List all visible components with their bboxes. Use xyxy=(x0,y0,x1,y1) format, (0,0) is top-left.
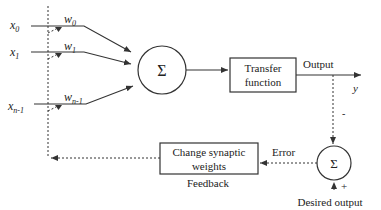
output-var: y xyxy=(352,82,358,94)
input-line-n xyxy=(34,86,133,104)
input-x0-label: x0 xyxy=(9,18,19,34)
desired-output-label: Desired output xyxy=(297,196,362,208)
error-label: Error xyxy=(272,146,296,158)
transfer-line2: function xyxy=(245,76,282,88)
input-xn-label: xn-1 xyxy=(7,99,24,115)
weights-line2: weights xyxy=(192,160,226,172)
weights-line1: Change synaptic xyxy=(172,146,245,158)
input-line-1 xyxy=(31,52,131,64)
neuron-diagram: x0 x1 xn-1 w0 w1 wn-1 Σ Transfer functio… xyxy=(0,0,381,210)
input-line-0 xyxy=(31,26,131,52)
feedback-label: Feedback xyxy=(187,177,230,189)
input-x1-label: x1 xyxy=(9,45,19,61)
error-summation-symbol: Σ xyxy=(330,156,338,171)
plus-sign: + xyxy=(341,180,347,192)
output-label: Output xyxy=(303,58,334,70)
transfer-line1: Transfer xyxy=(245,62,282,74)
minus-sign: - xyxy=(342,108,345,119)
summation-symbol: Σ xyxy=(157,62,166,79)
